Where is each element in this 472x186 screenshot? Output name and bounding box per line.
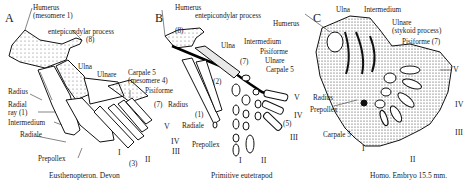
a-entepicondylar-label: entepicondylar process <box>48 28 114 36</box>
b-prepollex-label: Prepollex <box>192 141 220 149</box>
b-radiale-label: Radiale <box>182 122 204 130</box>
c-digit-ii: II <box>410 155 415 164</box>
b-pisiforme-num: (7) <box>240 58 248 66</box>
panel-a-letter: A <box>5 11 14 26</box>
c-ulna-label: Ulna <box>336 6 350 14</box>
a-digit-iii: III <box>172 147 180 156</box>
c-ulnare-label: Ulnare <box>392 19 412 27</box>
c-humerus-label: Humerus <box>273 20 299 28</box>
a-radial-ray-label: Radial <box>8 101 27 109</box>
a-radius-label: Radius <box>8 88 28 96</box>
b-humerus-label: Humerus <box>175 4 201 12</box>
panel-b-letter: B <box>155 11 163 26</box>
b-digit-i: I <box>239 156 242 165</box>
c-ulnare-sub-label: (stykoid process) <box>392 27 441 35</box>
a-prepollex-label: Prepollex <box>38 155 66 163</box>
a-radial-ray-label-2: ray (1) <box>8 109 27 117</box>
b-entepicondylar-label: entepicondylar process <box>195 12 261 20</box>
panel-c-letter: C <box>313 11 321 26</box>
b-radius-label: Radius <box>168 101 188 109</box>
b-ulna-label: Ulna <box>221 42 235 50</box>
a-carpale5-label: Carpale 5 <box>128 69 156 77</box>
a-digit-iv: IV <box>171 137 179 146</box>
c-prepollex-label: Prepollex <box>310 106 338 114</box>
b-digit-iv: IV <box>294 111 302 120</box>
c-radius-label: Radius <box>313 94 333 102</box>
b-ulnare-label: Ulnare <box>265 57 285 65</box>
a-radiale-label: Radiale <box>20 131 42 139</box>
a-humerus-label: Humerus <box>33 4 59 12</box>
b-digit-iii: III <box>290 133 298 142</box>
b-digit-ii: II <box>261 156 266 165</box>
c-digit-iv: IV <box>455 100 463 109</box>
a-humerus-sub-label: (mesomere 1) <box>33 12 73 20</box>
b-pisiforme-label: Pisiforme <box>260 48 288 56</box>
a-digit-i: I <box>118 148 121 157</box>
a-ulna-label: Ulna <box>78 63 92 71</box>
a-digit-v: V <box>164 122 170 131</box>
a-digit-ii: II <box>145 155 150 164</box>
b-intermedium-label: Intermedium <box>244 38 281 46</box>
a-ulnare-label: Ulnare <box>97 71 117 79</box>
b-num5: (5) <box>283 120 291 128</box>
b-num2: (2) <box>213 78 221 86</box>
b-caption: Primitive eutetrapod <box>211 171 272 180</box>
a-num3: (3) <box>129 160 137 168</box>
c-carpale5-label: Carpale 5 <box>323 131 351 139</box>
b-digit-v: V <box>294 93 300 102</box>
c-digit-v: V <box>453 65 459 74</box>
c-pisiforme-label: Pisiforme (7) <box>402 38 440 46</box>
a-intermedium-label: Intermedium <box>8 119 45 127</box>
b-num1: (1) <box>195 111 203 119</box>
a-pisiforme-label: Pisiforme <box>145 87 173 95</box>
b-carpale5-label: Carpale 5 <box>266 66 294 74</box>
c-digit-iii: III <box>455 128 463 137</box>
c-digit-i: I <box>362 144 365 153</box>
panel-c-drawing <box>316 16 452 146</box>
a-carpale5-sub-label: (mesomere 4) <box>128 77 168 85</box>
a-caption: Eusthenopteron. Devon <box>49 171 120 180</box>
a-pisiforme-num: (7) <box>154 101 162 109</box>
a-entepicondylar-num: (8) <box>86 36 94 44</box>
b-entepicondylar-num: (8) <box>175 27 183 35</box>
c-intermedium-label: Intermedium <box>364 6 401 14</box>
c-caption: Homo. Embryo 15.5 mm. <box>370 171 447 180</box>
